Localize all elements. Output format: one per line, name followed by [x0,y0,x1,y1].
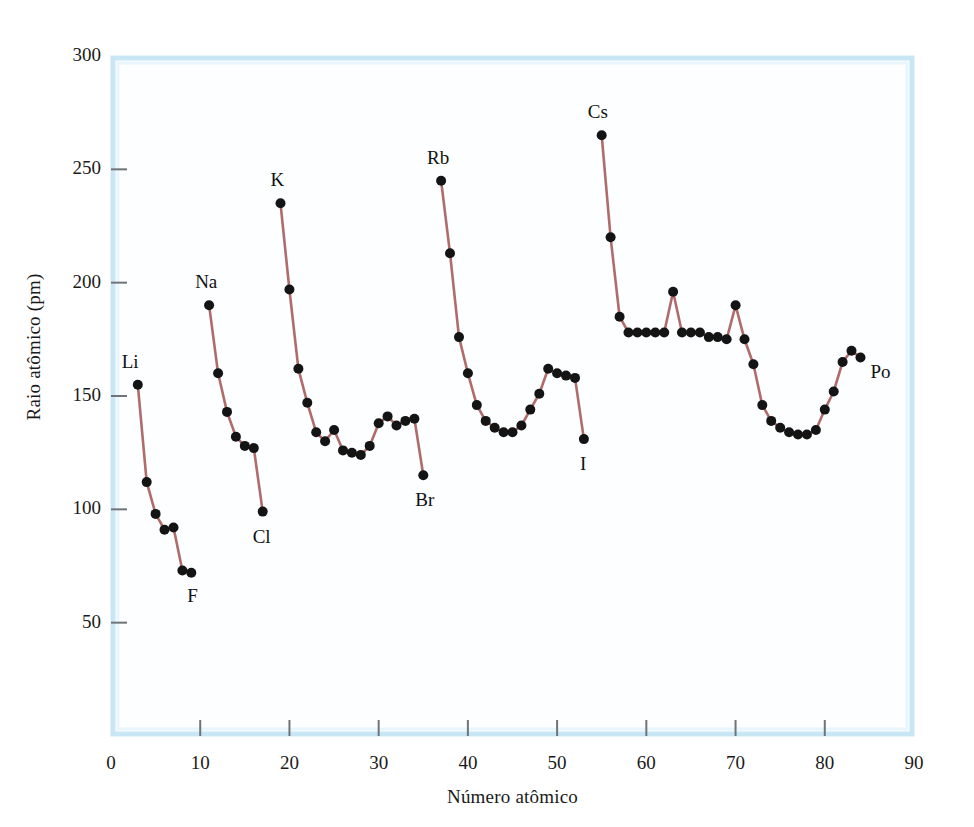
data-point-marker [186,568,196,578]
element-label-na: Na [195,271,217,293]
x-tick-label: 90 [894,752,934,774]
data-point-marker [436,176,446,186]
data-point-marker [169,523,179,533]
data-point-marker [579,434,589,444]
data-point-marker [347,448,357,458]
data-point-marker [463,368,473,378]
y-axis-title: Raio atômico (pm) [23,217,45,477]
x-tick-label: 30 [359,752,399,774]
data-point-marker [677,328,687,338]
data-point-marker [731,300,741,310]
data-point-marker [240,441,250,451]
x-axis-title: Número atômico [111,786,914,808]
data-point-marker [400,416,410,426]
data-point-marker [177,566,187,576]
data-point-marker [516,421,526,431]
data-point-marker [641,328,651,338]
y-tick-label: 200 [49,271,101,293]
y-tick-label: 300 [49,44,101,66]
data-point-marker [552,368,562,378]
data-point-marker [454,332,464,342]
data-point-marker [802,430,812,440]
data-point-marker [222,407,232,417]
x-tick-label: 0 [91,752,131,774]
data-point-marker [659,328,669,338]
data-point-marker [338,445,348,455]
data-point-marker [704,332,714,342]
data-point-marker [570,373,580,383]
data-point-marker [748,359,758,369]
data-point-marker [356,450,366,460]
element-label-rb: Rb [427,147,449,169]
data-point-marker [418,470,428,480]
data-point-marker [829,387,839,397]
plot-background [111,56,914,736]
data-point-marker [811,425,821,435]
data-point-marker [481,416,491,426]
data-point-marker [597,130,607,140]
data-point-marker [151,509,161,519]
data-point-marker [160,525,170,535]
data-point-marker [258,507,268,517]
data-point-marker [490,423,500,433]
data-point-marker [847,346,857,356]
x-tick-label: 50 [537,752,577,774]
data-point-marker [508,427,518,437]
data-point-marker [276,198,286,208]
data-point-marker [668,287,678,297]
data-point-marker [766,416,776,426]
data-point-marker [838,357,848,367]
data-point-marker [695,328,705,338]
data-point-marker [793,430,803,440]
data-point-marker [374,418,384,428]
data-point-marker [561,371,571,381]
data-point-marker [757,400,767,410]
data-point-marker [472,400,482,410]
data-point-marker [213,368,223,378]
data-point-marker [320,436,330,446]
data-point-marker [722,334,732,344]
element-label-po: Po [870,361,890,383]
y-tick-label: 100 [49,497,101,519]
data-point-marker [204,300,214,310]
element-label-i: I [580,453,586,475]
atomic-radius-chart: Raio atômico (pm) Número atômico 5010015… [0,0,974,827]
x-tick-label: 70 [716,752,756,774]
element-label-li: Li [122,351,139,373]
data-point-marker [409,414,419,424]
x-tick-label: 40 [448,752,488,774]
data-point-marker [499,427,509,437]
data-point-marker [856,353,866,363]
data-point-marker [775,423,785,433]
x-tick-label: 20 [269,752,309,774]
data-point-marker [740,334,750,344]
data-point-marker [365,441,375,451]
data-point-marker [624,328,634,338]
element-label-cl: Cl [253,526,271,548]
data-point-marker [284,285,294,295]
x-tick-label: 60 [626,752,666,774]
data-point-marker [615,312,625,322]
data-point-marker [311,427,321,437]
y-tick-label: 250 [49,157,101,179]
data-point-marker [142,477,152,487]
data-point-marker [133,380,143,390]
element-label-cs: Cs [588,101,608,123]
y-tick-label: 50 [49,611,101,633]
plot-background-fill [111,56,914,736]
x-tick-label: 10 [180,752,220,774]
element-label-f: F [187,585,198,607]
plot-area [0,0,974,827]
data-point-marker [525,405,535,415]
x-tick-label: 80 [805,752,845,774]
y-tick-label: 150 [49,384,101,406]
data-point-marker [632,328,642,338]
element-label-k: K [271,169,285,191]
data-point-marker [445,248,455,258]
data-point-marker [249,443,259,453]
data-point-marker [534,389,544,399]
data-point-marker [686,328,696,338]
data-point-marker [820,405,830,415]
data-point-marker [302,398,312,408]
data-point-marker [713,332,723,342]
